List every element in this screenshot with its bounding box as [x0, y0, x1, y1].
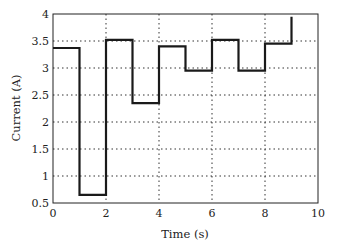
y-tick-label: 1 [42, 170, 49, 183]
y-tick-label: 0.5 [32, 197, 50, 210]
y-tick-label: 2.5 [32, 89, 50, 102]
current-step-line [53, 17, 292, 195]
x-tick-label: 6 [209, 207, 216, 220]
y-tick-label: 2 [42, 116, 49, 129]
y-tick-label: 4 [42, 8, 49, 21]
y-axis-ticks: 0.511.522.533.54 [32, 8, 50, 210]
x-tick-label: 4 [156, 207, 163, 220]
chart: 0.511.522.533.54 0246810 Time (s) Curren… [0, 0, 337, 248]
x-axis-ticks: 0246810 [50, 207, 326, 220]
plot-area [53, 14, 318, 203]
x-tick-label: 0 [50, 207, 57, 220]
y-tick-label: 3.5 [32, 35, 50, 48]
y-tick-label: 3 [42, 62, 49, 75]
y-axis-label: Current (A) [9, 75, 23, 142]
y-tick-label: 1.5 [32, 143, 50, 156]
x-tick-label: 2 [103, 207, 110, 220]
x-tick-label: 10 [311, 207, 325, 220]
x-tick-label: 8 [262, 207, 269, 220]
grid-lines [53, 14, 318, 203]
x-axis-label: Time (s) [161, 227, 209, 241]
